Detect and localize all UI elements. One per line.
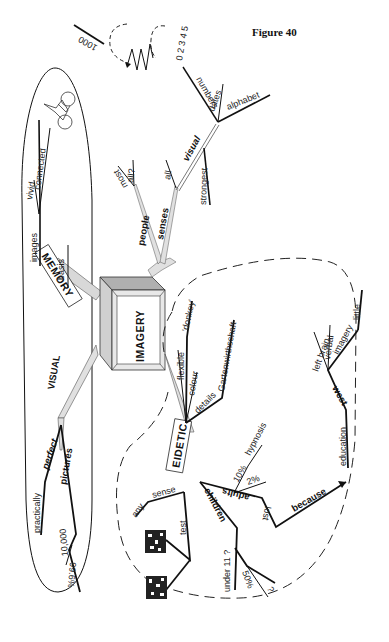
label-flexible: flexible (176, 352, 186, 380)
label-strongest: strongest (198, 167, 209, 205)
label-because: because (290, 485, 328, 514)
label-1000: 1000 (77, 34, 99, 53)
label-pictures: pictures (57, 447, 74, 485)
label-under-11: under 11 ? (222, 550, 232, 592)
label-connected: connected (32, 148, 48, 191)
random-dot-pattern-icon (145, 530, 167, 599)
top-doodle: 1000 0 2 3 4 5 (74, 24, 190, 70)
label-any: any (129, 501, 146, 519)
label-colour: colour (186, 370, 200, 396)
label-digits: 0 2 3 4 5 (174, 25, 190, 61)
label-99-6: 99.6% (66, 562, 78, 588)
eidetic-label-box: EIDETIC (166, 419, 192, 473)
label-50-pct: 50% (240, 569, 256, 589)
label-hypnosis: hypnosis (243, 420, 269, 456)
mind-map-canvas: Figure 40 1000 0 2 3 4 5 MEMORY images v… (0, 0, 389, 642)
label-little: little (352, 304, 362, 320)
label-all: all (162, 170, 173, 181)
label-visual-left: VISUAL (45, 354, 62, 390)
label-donkey: 'donkey' (180, 298, 197, 332)
label-test: test (178, 520, 188, 535)
label-garten: Gartenwirthschaft (216, 321, 238, 393)
label-visual: visual (180, 134, 203, 163)
label-all-q: all? (125, 168, 137, 183)
imagery-box: IMAGERY (100, 277, 165, 370)
label-10000: 10,000 (58, 528, 70, 556)
label-west: west (330, 383, 351, 408)
figure-title: Figure 40 (252, 26, 297, 38)
label-question: ? (265, 585, 276, 593)
label-basis: basis (56, 258, 66, 280)
label-perfect: perfect (39, 436, 60, 471)
label-lost: lost (261, 506, 273, 522)
label-education: education (338, 427, 348, 466)
bicycle-icon (44, 92, 75, 129)
label-practically: practically (32, 492, 42, 533)
label-images: images (29, 232, 39, 262)
center-label: IMAGERY (134, 310, 146, 362)
